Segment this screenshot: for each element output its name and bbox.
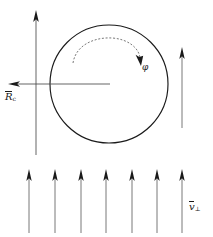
radius-vector-arrow [8,81,110,87]
field-arrow [129,169,134,233]
field-arrow [52,169,57,233]
velocity-subscript: ⊥ [195,205,201,212]
vertical-axis [33,10,39,155]
figure-canvas [0,0,213,237]
radius-symbol: R [5,92,13,102]
velocity-symbol: v [189,202,195,212]
gyro-angle-arc [73,38,143,66]
dashed-arc-path [73,38,140,63]
field-arrow [26,169,31,233]
velocity-perp-label: v⊥ [189,202,200,213]
field-arrow [179,169,184,233]
field-arrow-row [26,169,184,233]
radius-vector-label: Rc [5,92,16,103]
right-field-arrow [179,47,184,128]
physics-diagram: Rc v⊥ φ [0,0,213,237]
radius-subscript: c [13,95,16,102]
gyro-angle-label: φ [142,63,148,72]
field-arrow [154,169,159,233]
field-arrow [103,169,108,233]
field-arrow [78,169,83,233]
